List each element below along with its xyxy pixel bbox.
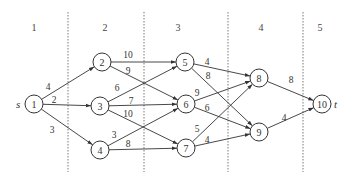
stage-labels: 12345 — [32, 22, 323, 33]
stage-label: 3 — [176, 22, 181, 33]
node-label: 8 — [257, 73, 262, 84]
stage-label: 4 — [259, 22, 264, 33]
sink-label: t — [334, 98, 338, 110]
stage-label: 2 — [103, 22, 108, 33]
node-label: 1 — [32, 99, 37, 110]
edge-weight: 9 — [195, 88, 200, 98]
edge-weight: 8 — [126, 139, 131, 149]
arrow — [194, 107, 250, 129]
arrow — [109, 148, 177, 150]
edge-weight: 8 — [206, 71, 211, 81]
arrow — [43, 104, 91, 105]
edge-1-3 — [43, 104, 91, 105]
edge-weight: 9 — [126, 66, 131, 76]
node-label: 7 — [184, 143, 189, 154]
edge-weight: 4 — [205, 57, 210, 67]
edge-weight: 7 — [129, 96, 134, 106]
node-8: 8 — [250, 69, 268, 87]
edge-weight: 10 — [123, 109, 133, 119]
edge-weight: 4 — [46, 82, 51, 92]
node-3: 3 — [91, 97, 109, 115]
arrow — [267, 108, 314, 129]
node-label: 2 — [100, 57, 105, 68]
node-5: 5 — [176, 53, 194, 71]
nodes: 12345678910 — [25, 53, 331, 159]
edge-3-6 — [109, 104, 177, 106]
arrow — [192, 84, 252, 142]
edge-weight: 6 — [205, 103, 210, 113]
edge-5-8 — [194, 64, 250, 76]
stage-label: 5 — [318, 22, 323, 33]
edge-weight: 8 — [289, 75, 294, 85]
arrow — [194, 64, 250, 76]
edge-weight: 3 — [50, 125, 55, 135]
edge-weight: 10 — [123, 50, 133, 60]
edge-5-9 — [192, 68, 253, 126]
edge-weight: 3 — [112, 130, 117, 140]
edge-weight: 5 — [195, 124, 200, 134]
arrow — [109, 104, 177, 106]
node-7: 7 — [177, 139, 195, 157]
arrow — [192, 68, 253, 126]
edge-4-6 — [108, 108, 178, 146]
edge-7-9 — [195, 134, 250, 146]
edge-weight: 4 — [282, 113, 287, 123]
edge-4-7 — [109, 148, 177, 150]
network-diagram: 12345 42310967103848965484 12345678910 s… — [0, 0, 348, 181]
node-label: 10 — [317, 99, 327, 110]
edge-6-9 — [194, 107, 250, 129]
edge-weight: 6 — [115, 83, 120, 93]
node-label: 9 — [257, 127, 262, 138]
node-label: 4 — [98, 145, 103, 156]
node-label: 3 — [98, 101, 103, 112]
node-4: 4 — [91, 141, 109, 159]
edge-weight: 2 — [52, 95, 57, 105]
node-10: 10 — [313, 95, 331, 113]
node-6: 6 — [177, 95, 195, 113]
edge-9-10 — [267, 108, 314, 129]
edge-7-8 — [192, 84, 252, 142]
node-9: 9 — [250, 123, 268, 141]
node-label: 5 — [183, 57, 188, 68]
node-1: 1 — [25, 95, 43, 113]
stage-label: 1 — [32, 22, 37, 33]
node-2: 2 — [93, 53, 111, 71]
arrow — [195, 134, 250, 146]
node-label: 6 — [184, 99, 189, 110]
edge-weight: 4 — [205, 135, 210, 145]
arrow — [108, 108, 178, 146]
source-label: s — [16, 98, 20, 110]
